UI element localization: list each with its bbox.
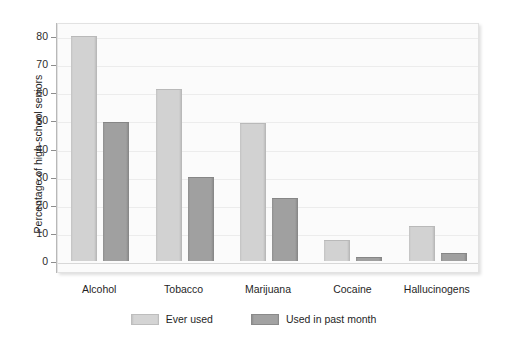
- bar-tobacco-ever-used: [156, 89, 182, 261]
- bar-alcohol-used-in-past-month: [103, 122, 129, 261]
- bar-cocaine-ever-used: [324, 240, 350, 261]
- y-tick-label-70: 70: [2, 58, 48, 70]
- y-tick-label-50: 50: [2, 114, 48, 126]
- x-label-hallucinogens: Hallucinogens: [404, 283, 470, 295]
- gridline-70: [58, 66, 478, 67]
- bar-cocaine-used-in-past-month: [356, 257, 382, 261]
- x-label-cocaine: Cocaine: [333, 283, 372, 295]
- y-tick-label-60: 60: [2, 86, 48, 98]
- legend-swatch-used-in-past-month: [251, 314, 279, 325]
- y-tick-label-0: 0: [2, 255, 48, 267]
- gridline-80: [58, 38, 478, 39]
- bar-chart-figure: Percentage of high-school seniors 010203…: [0, 0, 507, 346]
- x-label-tobacco: Tobacco: [164, 283, 203, 295]
- y-tick-label-20: 20: [2, 199, 48, 211]
- bar-alcohol-ever-used: [71, 36, 97, 261]
- gridline-60: [58, 94, 478, 95]
- y-tick-label-40: 40: [2, 143, 48, 155]
- legend-item-ever-used: Ever used: [131, 313, 213, 325]
- legend-item-used-in-past-month: Used in past month: [251, 313, 376, 325]
- x-label-marijuana: Marijuana: [245, 283, 291, 295]
- y-tick-label-10: 10: [2, 227, 48, 239]
- legend-label-used-in-past-month: Used in past month: [286, 313, 376, 325]
- bar-hallucinogens-ever-used: [409, 226, 435, 261]
- legend-label-ever-used: Ever used: [166, 313, 213, 325]
- y-axis-tick-labels: 01020304050607080: [0, 0, 48, 346]
- x-axis-category-labels: AlcoholTobaccoMarijuanaCocaineHallucinog…: [57, 283, 479, 301]
- bar-marijuana-ever-used: [240, 123, 266, 261]
- bar-tobacco-used-in-past-month: [188, 177, 214, 261]
- bar-marijuana-used-in-past-month: [272, 198, 298, 261]
- chart-legend: Ever used Used in past month: [0, 313, 507, 325]
- x-label-alcohol: Alcohol: [82, 283, 116, 295]
- y-tick-label-80: 80: [2, 30, 48, 42]
- legend-swatch-ever-used: [131, 314, 159, 325]
- y-tick-label-30: 30: [2, 171, 48, 183]
- plot-inner: [58, 24, 478, 272]
- bar-hallucinogens-used-in-past-month: [441, 253, 467, 261]
- plot-area: [57, 23, 479, 273]
- gridline-0: [58, 263, 478, 264]
